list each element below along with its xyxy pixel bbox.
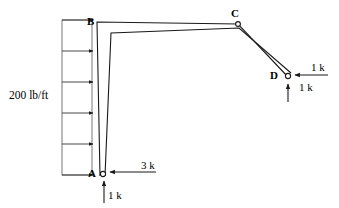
node-label-a: A: [88, 168, 96, 179]
distributed-load-label: 200 lb/ft: [9, 90, 48, 102]
frame-diagram-canvas: [0, 0, 339, 208]
structural-frame-diagram: 200 lb/ft A B C D 3 k 1 k 1 k 1 k: [0, 0, 339, 208]
applied-forces-group: [104, 75, 328, 203]
force-label-a-vertical: 1 k: [108, 190, 122, 201]
force-label-a-horizontal: 3 k: [141, 160, 155, 171]
node-marker-a: [100, 171, 105, 176]
distributed-load-box: [62, 20, 92, 175]
distributed-load-arrows: [62, 20, 93, 175]
node-marker-c: [236, 22, 241, 27]
node-label-b: B: [87, 16, 94, 27]
node-label-c: C: [231, 8, 239, 19]
frame-members-group: [97, 22, 291, 176]
node-marker-d: [285, 73, 290, 78]
distributed-load-group: [62, 20, 93, 175]
force-label-d-vertical: 1 k: [299, 82, 313, 93]
node-label-d: D: [270, 70, 278, 81]
node-markers-group: [100, 22, 290, 177]
force-label-d-horizontal: 1 k: [311, 62, 325, 73]
